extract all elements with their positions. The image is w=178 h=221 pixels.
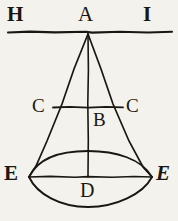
mid-chord	[53, 107, 123, 108]
label-A: A	[78, 4, 93, 25]
label-H: H	[7, 4, 23, 25]
cone-figure: H A I C C B E E D	[0, 0, 178, 221]
horizon-line	[8, 32, 172, 33]
label-C-right: C	[126, 96, 139, 115]
base-diameter	[29, 176, 152, 177]
label-I: I	[143, 4, 151, 25]
label-B: B	[93, 110, 106, 129]
label-E-right: E	[156, 163, 170, 184]
cone-axis	[88, 34, 89, 177]
label-D: D	[80, 180, 94, 200]
label-C-left: C	[32, 96, 45, 115]
label-E-left: E	[4, 163, 18, 184]
base-ellipse-upper-arc	[29, 151, 152, 177]
